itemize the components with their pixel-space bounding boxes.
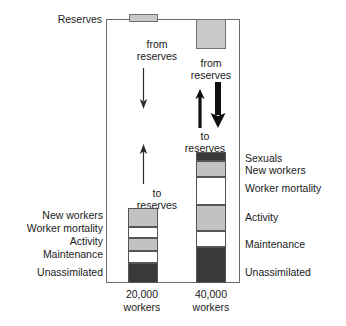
annotation-line-1: to <box>167 130 243 142</box>
arrow-up-medium-40000 <box>194 89 206 128</box>
right-label-sexuals: Sexuals <box>245 152 282 164</box>
annotation-line-1: from <box>173 57 249 69</box>
segment-new-workers-40000 <box>196 161 226 177</box>
bar-40000-workers <box>196 152 226 283</box>
segment-unassimilated-20000 <box>128 263 158 283</box>
right-label-maintenance: Maintenance <box>245 238 305 250</box>
segment-new-workers-20000 <box>128 208 158 227</box>
left-label-unassimilated: Unassimilated <box>0 266 103 278</box>
arrow-up-thin-20000 <box>137 144 150 184</box>
arrow-down-thin-20000 <box>137 68 150 110</box>
tick-label-40000-workers: 40,000 workers <box>172 288 250 314</box>
tick-label-20000-workers: 20,000 workers <box>103 288 181 314</box>
left-label-activity: Activity <box>0 235 103 247</box>
annotation-line-1: to <box>107 187 207 199</box>
reserves-box-40000 <box>196 19 226 49</box>
annotation-line-2: reserves <box>173 69 249 81</box>
segment-unassimilated-40000 <box>196 247 226 283</box>
annotation-from-reserves-40000: from reserves <box>173 57 249 81</box>
segment-activity-20000 <box>128 238 158 251</box>
reserves-label: Reserves <box>0 13 102 25</box>
plot-frame: from reserves to reserves <box>106 19 240 283</box>
right-label-activity: Activity <box>245 211 278 223</box>
segment-worker-mortality-40000 <box>196 177 226 205</box>
segment-maintenance-40000 <box>196 231 226 247</box>
segment-activity-40000 <box>196 205 226 231</box>
arrow-down-thick-40000 <box>210 82 226 128</box>
segment-maintenance-20000 <box>128 251 158 263</box>
left-label-maintenance: Maintenance <box>0 248 103 260</box>
tick-line-2: workers <box>103 301 181 314</box>
tick-line-2: workers <box>172 301 250 314</box>
stacked-bar-chart-figure: Reserves from reserves to reserves <box>0 0 346 326</box>
tick-line-1: 40,000 <box>172 288 250 301</box>
left-label-new-workers: New workers <box>0 209 103 221</box>
bar-20000-workers <box>128 208 158 283</box>
left-label-worker-mortality: Worker mortality <box>0 222 103 234</box>
segment-worker-mortality-20000 <box>128 227 158 238</box>
segment-sexuals-40000 <box>196 152 226 161</box>
right-label-new-workers: New workers <box>245 164 306 176</box>
tick-line-1: 20,000 <box>103 288 181 301</box>
right-label-unassimilated: Unassimilated <box>245 266 311 278</box>
annotation-to-reserves-40000: to reserves <box>167 130 243 154</box>
reserves-box-20000 <box>129 14 158 22</box>
annotation-line-1: from <box>107 38 207 50</box>
right-label-worker-mortality: Worker mortality <box>245 182 321 194</box>
